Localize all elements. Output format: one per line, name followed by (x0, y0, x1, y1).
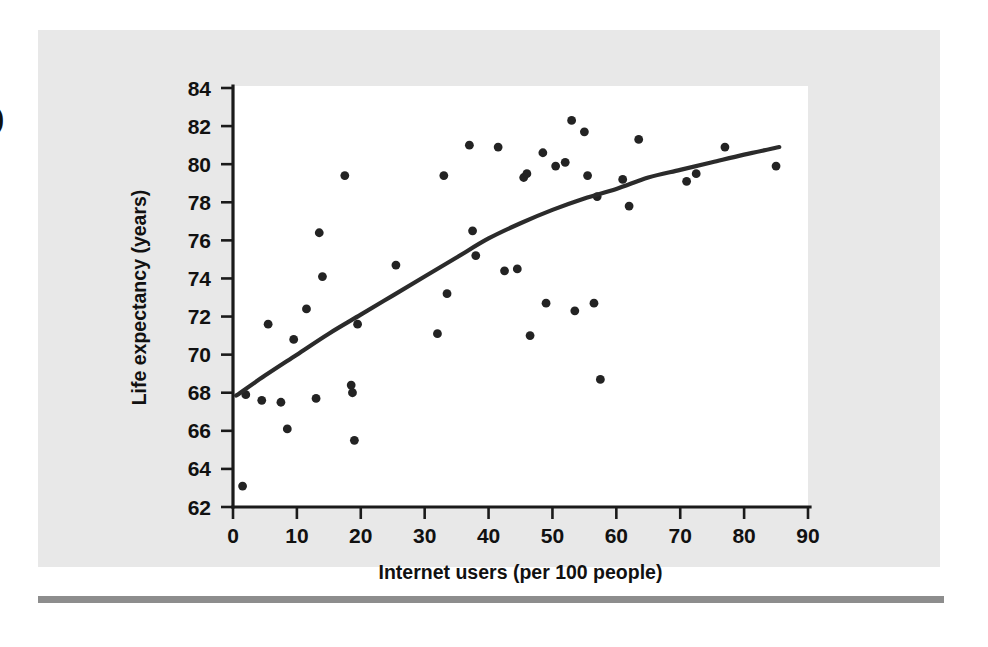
y-axis-title: Life expectancy (years) (128, 190, 150, 406)
y-tick-label: 76 (188, 229, 211, 252)
data-point (567, 116, 576, 125)
data-point (692, 169, 701, 178)
bottom-rule (38, 596, 944, 603)
data-point (350, 436, 359, 445)
y-tick-label: 72 (188, 305, 211, 328)
data-point (634, 135, 643, 144)
x-tick-label: 90 (796, 524, 819, 547)
data-point (283, 425, 292, 434)
y-tick-label: 66 (188, 419, 211, 442)
y-axis-ticks (221, 88, 233, 507)
x-tick-label: 80 (732, 524, 755, 547)
data-point (443, 289, 452, 298)
y-tick-label: 74 (188, 267, 212, 290)
data-point (494, 143, 503, 152)
data-point (439, 171, 448, 180)
data-point (596, 375, 605, 384)
x-axis-title: Internet users (per 100 people) (379, 561, 663, 583)
data-point (340, 171, 349, 180)
y-tick-label: 68 (188, 381, 212, 404)
data-point (238, 482, 247, 491)
x-tick-label: 40 (477, 524, 500, 547)
data-point (433, 329, 442, 338)
y-tick-label: 70 (188, 343, 211, 366)
data-point (580, 127, 589, 136)
x-tick-label: 30 (413, 524, 436, 547)
data-point (353, 320, 362, 329)
data-point (315, 228, 324, 237)
data-point (392, 261, 401, 270)
data-point (721, 143, 730, 152)
data-point (500, 266, 509, 275)
data-point (257, 396, 266, 405)
y-tick-label: 64 (188, 457, 212, 480)
screenshot-page: ) 626466687072747678808284 0102030405060… (0, 0, 988, 647)
y-tick-label: 78 (188, 191, 212, 214)
data-point (264, 320, 273, 329)
x-axis-ticks (233, 507, 808, 519)
data-point (538, 148, 547, 157)
data-point (583, 171, 592, 180)
y-tick-label: 62 (188, 496, 211, 519)
data-point (772, 162, 781, 171)
scatter-chart: 626466687072747678808284 010203040506070… (0, 0, 988, 647)
y-tick-label: 84 (188, 77, 212, 100)
x-tick-label: 10 (285, 524, 308, 547)
x-tick-label: 60 (605, 524, 628, 547)
x-tick-label: 0 (227, 524, 239, 547)
data-point (570, 306, 579, 315)
data-point (468, 226, 477, 235)
y-tick-label: 82 (188, 115, 211, 138)
data-point (471, 251, 480, 260)
data-point (347, 381, 356, 390)
x-tick-label: 20 (349, 524, 372, 547)
data-point (542, 299, 551, 308)
data-point (526, 331, 535, 340)
data-point (522, 169, 531, 178)
data-point (277, 398, 286, 407)
data-point (348, 388, 357, 397)
y-tick-label: 80 (188, 153, 211, 176)
data-point (682, 177, 691, 186)
data-point (590, 299, 599, 308)
data-point (625, 202, 634, 211)
data-point (312, 394, 321, 403)
data-point (618, 175, 627, 184)
scatter-points (238, 116, 780, 490)
data-point (513, 265, 522, 274)
x-tick-label: 50 (541, 524, 564, 547)
data-point (551, 162, 560, 171)
y-axis-tick-labels: 626466687072747678808284 (188, 77, 212, 519)
data-point (318, 272, 327, 281)
x-axis-tick-labels: 0102030405060708090 (227, 524, 820, 547)
x-tick-label: 70 (669, 524, 692, 547)
data-point (465, 141, 474, 150)
data-point (561, 158, 570, 167)
data-point (289, 335, 298, 344)
data-point (302, 305, 311, 314)
